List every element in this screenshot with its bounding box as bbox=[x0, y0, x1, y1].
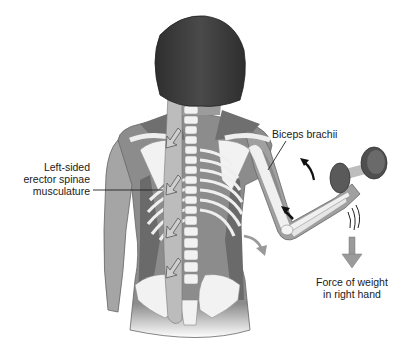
label-biceps-text: Biceps brachii bbox=[272, 128, 337, 140]
vibration-marks-icon bbox=[348, 205, 360, 230]
weight-force-arrow-icon bbox=[342, 237, 362, 268]
spine bbox=[184, 96, 198, 284]
label-force-of-weight: Force of weight in right hand bbox=[312, 276, 392, 300]
anatomy-illustration: Left-sided erector spinae musculature Bi… bbox=[0, 0, 402, 348]
label-force-line-2: in right hand bbox=[312, 288, 392, 300]
label-erector-line-1: Left-sided bbox=[23, 161, 90, 173]
label-erector-spinae: Left-sided erector spinae musculature bbox=[23, 161, 90, 197]
erector-spinae-muscle bbox=[164, 94, 183, 323]
label-biceps-brachii: Biceps brachii bbox=[272, 128, 337, 140]
label-erector-line-2: erector spinae bbox=[23, 173, 90, 185]
label-erector-line-3: musculature bbox=[23, 185, 90, 197]
label-force-line-1: Force of weight bbox=[312, 276, 392, 288]
torso-rotation-arrow-icon bbox=[244, 236, 267, 256]
hair bbox=[155, 16, 245, 107]
dumbbell bbox=[330, 147, 387, 193]
forearm-rotation-arrow-icon bbox=[300, 158, 314, 180]
